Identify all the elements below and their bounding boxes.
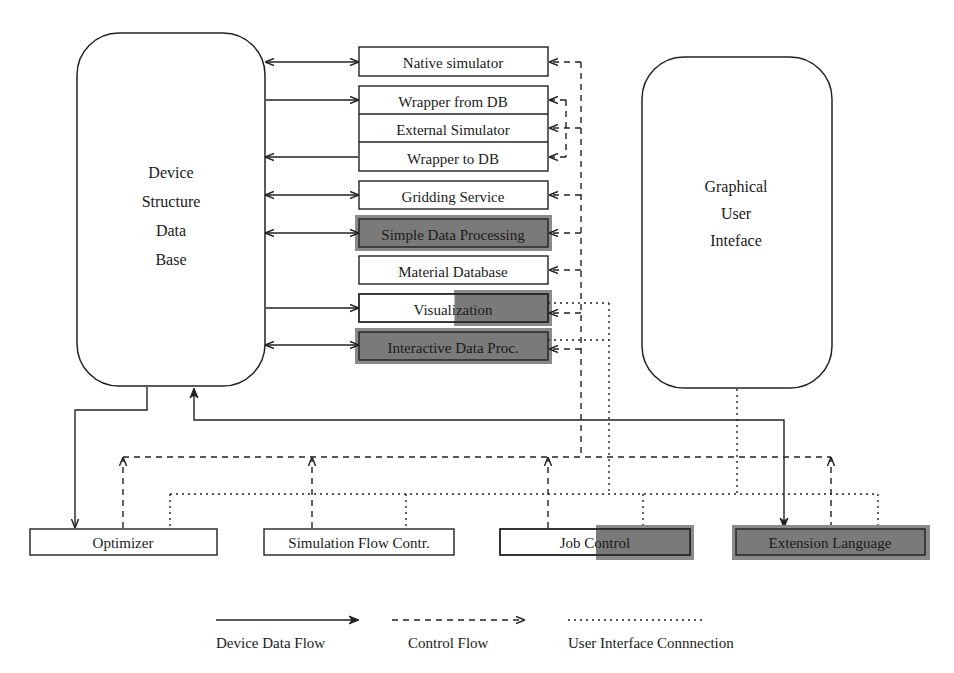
svg-text:Control Flow: Control Flow [408, 635, 489, 651]
svg-text:Extension Language: Extension Language [769, 535, 892, 551]
device-db-line-4: Base [155, 251, 186, 268]
svg-text:Optimizer: Optimizer [93, 535, 154, 551]
device-structure-database: Device Structure Data Base [77, 33, 265, 386]
service-material-database: Material Database [359, 256, 548, 284]
service-gridding-service: Gridding Service [359, 181, 548, 209]
svg-text:Material Database: Material Database [398, 264, 508, 280]
service-wrapper-to-db: Wrapper to DB [407, 151, 499, 167]
service-stack: Native simulator Wrapper from DB Externa… [355, 47, 552, 364]
graphical-user-interface: Graphical User Inteface [642, 57, 832, 388]
service-external-simulator-group: Wrapper from DB External Simulator Wrapp… [359, 86, 548, 171]
gui-line-3: Inteface [710, 232, 762, 249]
svg-text:Visualization: Visualization [413, 302, 493, 318]
legend-control-flow: Control Flow [392, 620, 524, 651]
service-interactive-data-proc: Interactive Data Proc. [359, 332, 548, 360]
svg-text:Job Control: Job Control [560, 535, 630, 551]
svg-text:Simulation Flow Contr.: Simulation Flow Contr. [288, 535, 429, 551]
legend-user-interface-connection: User Interface Connnection [568, 620, 734, 651]
component-job-control: Job Control [500, 525, 694, 560]
service-external-simulator: External Simulator [396, 122, 510, 138]
device-db-line-2: Structure [142, 193, 201, 210]
device-db-line-1: Device [148, 164, 193, 181]
service-simple-data-processing: Simple Data Processing [359, 219, 548, 247]
svg-text:Interactive Data Proc.: Interactive Data Proc. [387, 340, 518, 356]
component-optimizer: Optimizer [30, 529, 217, 555]
svg-text:Gridding Service: Gridding Service [402, 189, 505, 205]
service-native-simulator: Native simulator [359, 47, 548, 76]
gui-line-1: Graphical [704, 178, 768, 196]
svg-text:Native simulator: Native simulator [403, 55, 503, 71]
service-visualization: Visualization [359, 294, 548, 322]
svg-text:Device Data Flow: Device Data Flow [216, 635, 325, 651]
device-db-line-3: Data [156, 222, 186, 239]
component-extension-language: Extension Language [732, 525, 930, 560]
device-data-flows [266, 62, 358, 345]
svg-text:User Interface Connnection: User Interface Connnection [568, 635, 734, 651]
svg-text:Simple Data Processing: Simple Data Processing [381, 227, 525, 243]
bottom-components: Optimizer Simulation Flow Contr. Job Con… [30, 525, 930, 560]
gui-line-2: User [721, 205, 752, 222]
architecture-diagram: Device Structure Data Base Graphical Use… [0, 0, 954, 673]
legend-device-data-flow: Device Data Flow [216, 620, 358, 651]
component-simulation-flow-control: Simulation Flow Contr. [264, 529, 454, 555]
legend: Device Data Flow Control Flow User Inter… [216, 620, 734, 651]
service-wrapper-from-db: Wrapper from DB [398, 94, 507, 110]
